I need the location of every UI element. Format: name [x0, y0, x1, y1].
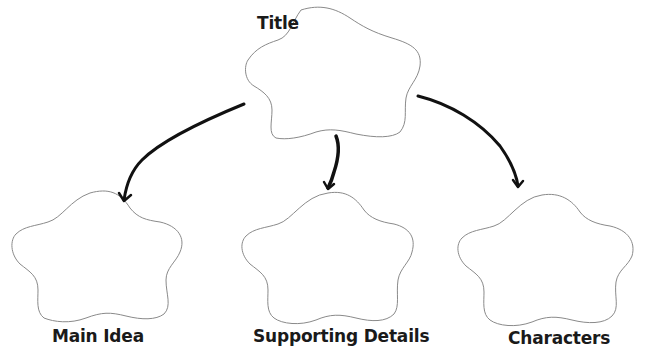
characters-cloud-shape [458, 194, 633, 325]
main-idea-label: Main Idea [52, 326, 144, 346]
arrow-to-main-idea [119, 104, 244, 201]
supporting-details-label: Supporting Details [253, 326, 429, 346]
diagram-svg [0, 0, 645, 353]
main-idea-cloud-shape [12, 191, 182, 322]
arrow-to-characters [418, 96, 523, 187]
characters-label: Characters [508, 328, 610, 348]
supporting-details-cloud-shape [242, 192, 413, 323]
title-node-label: Title [257, 13, 299, 33]
diagram-canvas: Title Main Idea Supporting Details Chara… [0, 0, 645, 353]
arrow-to-supporting-details [324, 136, 338, 189]
